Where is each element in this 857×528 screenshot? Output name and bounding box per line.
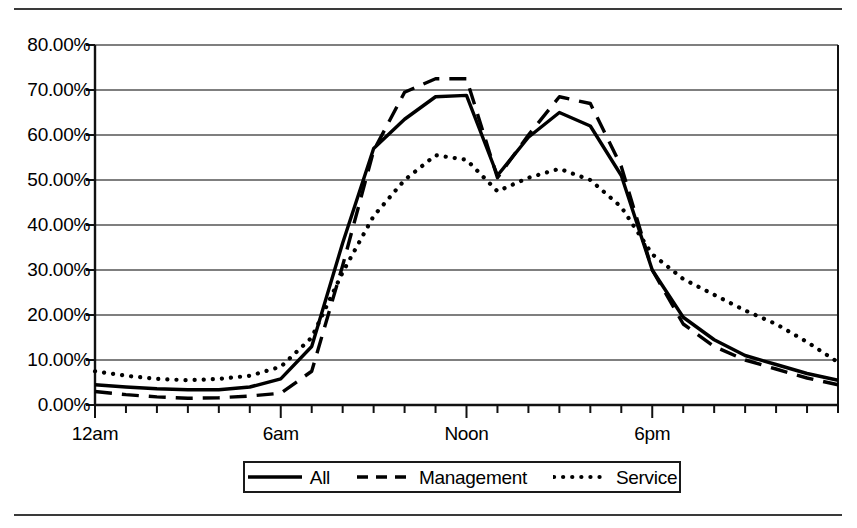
legend-items-row: AllManagementService: [245, 463, 679, 491]
dashed-line-swatch: [356, 471, 412, 483]
x-axis-ticks-group: [95, 405, 838, 418]
y-axis-tick-label: 70.00%: [4, 80, 90, 99]
y-axis-tick-label: 10.00%: [4, 350, 90, 369]
y-axis-tick-label: 20.00%: [4, 305, 90, 324]
x-axis-tick-label: 6pm: [602, 424, 702, 443]
x-axis-tick-label: 12am: [45, 424, 145, 443]
legend-label: Service: [616, 468, 677, 487]
y-axis-tick-label: 60.00%: [4, 125, 90, 144]
y-axis-tick-label: 0.00%: [4, 395, 90, 414]
chart-figure: 0.00%10.00%20.00%30.00%40.00%50.00%60.00…: [0, 0, 857, 528]
x-axis-tick-label: Noon: [417, 424, 517, 443]
y-axis-tick-label: 40.00%: [4, 215, 90, 234]
data-series-group: [95, 79, 838, 399]
y-axis-tick-label: 50.00%: [4, 170, 90, 189]
y-axis-tick-label: 80.00%: [4, 35, 90, 54]
x-axis-tick-label: 6am: [231, 424, 331, 443]
series-line-management: [95, 79, 838, 399]
y-axis-tick-label: 30.00%: [4, 260, 90, 279]
line-chart-plot: [0, 0, 857, 528]
legend-label: Management: [419, 468, 527, 487]
solid-line-swatch: [247, 471, 303, 483]
gridlines-group: [95, 45, 838, 360]
legend-item: All: [247, 468, 330, 487]
dotted-line-swatch: [553, 471, 609, 483]
chart-legend: AllManagementService: [243, 461, 681, 493]
series-line-all: [95, 95, 838, 389]
legend-item: Service: [553, 468, 677, 487]
legend-label: All: [310, 468, 330, 487]
legend-item: Management: [356, 468, 527, 487]
